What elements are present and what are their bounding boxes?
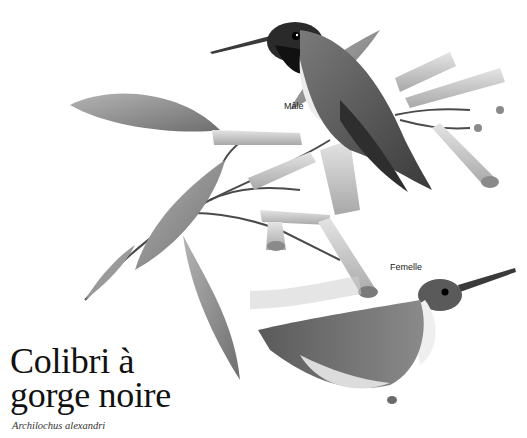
species-common-name-line1: Colibri à (10, 344, 171, 378)
species-common-name: Colibri à gorge noire (10, 344, 171, 412)
species-scientific-name: Archilochus alexandri (12, 420, 105, 431)
female-hummingbird (250, 268, 516, 404)
male-hummingbird (210, 22, 432, 192)
male-label: Mâle (284, 101, 304, 111)
field-guide-page: Mâle Femelle Colibri à gorge noire Archi… (0, 0, 527, 438)
female-label: Femelle (390, 262, 422, 272)
species-common-name-line2: gorge noire (10, 378, 171, 412)
